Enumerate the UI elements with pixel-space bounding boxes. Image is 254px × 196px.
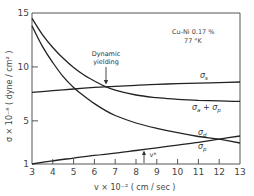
x-tick-label: 9 <box>154 167 160 177</box>
series-label: σd <box>198 128 207 138</box>
x-tick-label: 13 <box>234 167 245 177</box>
arrowhead-up-icon <box>142 151 146 156</box>
yielding-label: yielding <box>93 58 119 66</box>
x-tick-label: 3 <box>29 167 35 177</box>
series-label: σp <box>198 142 207 153</box>
curves <box>32 18 240 164</box>
material-label: Cu-Ni 0.17 % <box>172 28 214 36</box>
dynamic-yielding-annotation: Dynamic yielding <box>92 50 121 85</box>
series-label: σs <box>200 71 208 81</box>
x-tick-label: 12 <box>213 167 224 177</box>
curve-d <box>32 26 240 143</box>
x-tick-label: 5 <box>71 167 77 177</box>
material-note: Cu-Ni 0.17 % 77 °K <box>172 28 214 45</box>
curve-s <box>32 82 240 92</box>
x-tick-label: 7 <box>112 167 118 177</box>
x-tick-label: 11 <box>193 167 204 177</box>
arrowhead-icon <box>104 80 108 85</box>
y-tick-label: 1 <box>23 159 29 169</box>
x-tick-label: 6 <box>92 167 98 177</box>
stress-velocity-chart: 345678910111213 151015 σsσa + σpσdσp Dyn… <box>0 0 254 196</box>
y-tick-label: 15 <box>18 8 29 18</box>
x-tick-label: 4 <box>50 167 56 177</box>
x-tick-label: 8 <box>133 167 139 177</box>
x-tick-label: 10 <box>172 167 184 177</box>
y-axis-title: σ × 10⁻⁸ ( dyne / cm² ) <box>5 51 14 142</box>
y-tick-label: 5 <box>23 116 29 126</box>
x-axis-title: v × 10⁻² ( cm / sec ) <box>94 183 175 192</box>
dynamic-label: Dynamic <box>92 50 121 58</box>
y-tick-label: 10 <box>18 62 30 72</box>
v-star-label: v* <box>149 151 157 159</box>
series-label: σa + σp <box>192 103 221 114</box>
temperature-label: 77 °K <box>184 37 203 45</box>
v-star-annotation: v* <box>142 151 157 164</box>
x-ticks: 345678910111213 <box>29 159 246 177</box>
